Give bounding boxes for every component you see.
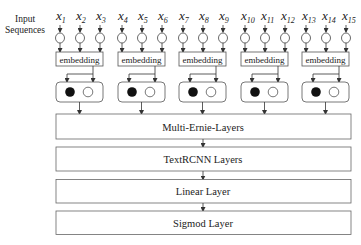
input-token-label: x2 [75,8,86,25]
input-group: x10x11x12embedding [240,8,295,114]
input-node-icon [199,33,208,43]
layer-label: TextRCNN Layers [164,154,243,165]
layer-multi-ernie: Multi-Ernie-Layers [56,114,351,139]
layer-sigmod: Sigmod Layer [56,211,351,235]
input-token-label: x5 [137,8,148,25]
input-node-icon [302,33,311,43]
input-group: x1x2x3embedding [55,8,106,114]
empty-node-icon [83,87,93,97]
hidden-state-box [302,82,349,102]
embedding-label: embedding [183,55,223,65]
input-token-label: x12 [280,8,295,25]
layer-linear: Linear Layer [56,180,351,204]
layer-label: Linear Layer [176,186,231,197]
input-node-icon [261,33,270,43]
input-token-label: x10 [240,8,255,25]
embedding-label: embedding [122,55,162,65]
input-token-label: x6 [157,8,168,25]
hidden-state-box [56,82,103,102]
embedding-label: embedding [306,55,346,65]
input-sequences-label-line2: Sequences [5,25,45,35]
input-token-label: x13 [301,8,316,25]
input-group: x7x8x9embedding [178,8,229,114]
input-token-label: x1 [55,8,66,25]
empty-node-icon [145,87,155,97]
filled-node-icon [188,87,198,97]
input-token-label: x4 [117,8,128,25]
input-node-icon [322,33,331,43]
input-groups: x1x2x3embeddingx4x5x6embeddingx7x8x9embe… [55,8,356,114]
input-node-icon [342,33,351,43]
input-node-icon [118,33,127,43]
hidden-state-box [179,82,226,102]
input-token-label: x15 [341,8,356,25]
input-sequences-label-line1: Input [15,14,35,24]
input-token-label: x7 [178,8,190,25]
input-node-icon [158,33,167,43]
filled-node-icon [311,87,321,97]
input-group: x4x5x6embedding [117,8,168,114]
input-node-icon [281,33,290,43]
input-token-label: x3 [95,8,106,25]
hidden-state-box [118,82,165,102]
filled-node-icon [127,87,137,97]
input-node-icon [76,33,85,43]
empty-node-icon [206,87,216,97]
input-node-icon [219,33,228,43]
input-token-label: x8 [198,8,209,25]
input-token-label: x11 [260,8,274,25]
layer-textrcnn: TextRCNN Layers [56,147,351,171]
input-node-icon [241,33,250,43]
empty-node-icon [329,87,339,97]
input-node-icon [96,33,105,43]
input-token-label: x14 [321,8,336,25]
filled-node-icon [65,87,75,97]
empty-node-icon [268,87,278,97]
layer-label: Multi-Ernie-Layers [162,122,244,133]
embedding-label: embedding [60,55,100,65]
layer-label: Sigmod Layer [173,218,233,229]
input-node-icon [56,33,65,43]
hidden-state-box [241,82,288,102]
model-architecture-diagram: Input Sequences x1x2x3embeddingx4x5x6emb… [0,0,361,245]
embedding-label: embedding [245,55,285,65]
input-token-label: x9 [218,8,229,25]
input-node-icon [179,33,188,43]
input-node-icon [138,33,147,43]
input-group: x13x14x15embedding [301,8,356,114]
filled-node-icon [250,87,260,97]
